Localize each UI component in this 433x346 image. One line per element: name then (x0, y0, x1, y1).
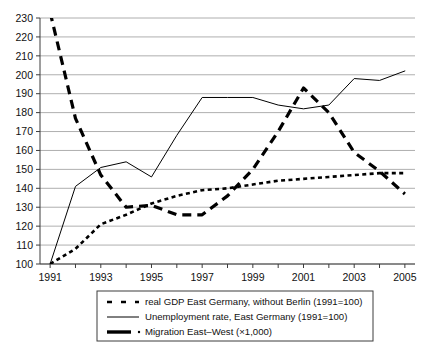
series-line-1 (50, 71, 405, 264)
x-tick-label: 2003 (343, 271, 367, 283)
x-tick-label: 1995 (140, 271, 164, 283)
y-tick-label: 220 (15, 31, 33, 43)
legend-item-label: Unemployment rate, East Germany (1991=10… (145, 311, 347, 322)
x-tick-label: 2005 (393, 271, 417, 283)
x-tick-label: 1993 (89, 271, 113, 283)
dot-marker-icon (138, 331, 140, 333)
y-tick-label: 170 (15, 125, 33, 137)
x-tick-label: 1991 (38, 271, 62, 283)
y-tick-label: 200 (15, 69, 33, 81)
x-tick-label: 1997 (190, 271, 214, 283)
chart-legend: real GDP East Germany, without Berlin (1… (97, 291, 373, 341)
y-tick-label: 140 (15, 182, 33, 194)
y-tick-label: 130 (15, 201, 33, 213)
y-tick-label: 110 (16, 239, 33, 251)
y-tick-label: 100 (15, 258, 33, 270)
chart-container: 1001101201301401501601701801902002102202… (0, 0, 433, 346)
legend-item-label: real GDP East Germany, without Berlin (1… (145, 296, 362, 307)
x-tick-label: 2001 (292, 271, 316, 283)
y-tick-label: 180 (15, 106, 33, 118)
x-tick-label: 1999 (241, 271, 265, 283)
x-axis-tick-labels: 19911993199519971999200120032005 (38, 271, 416, 283)
y-tick-label: 230 (15, 12, 33, 24)
y-axis-tick-labels: 1001101201301401501601701801902002102202… (15, 12, 33, 270)
y-tick-label: 150 (15, 163, 33, 175)
y-tick-label: 120 (15, 220, 33, 232)
series-line-0 (50, 173, 405, 264)
legend-item-label: Migration East–West (×1,000) (145, 326, 272, 337)
legend-item[interactable]: real GDP East Germany, without Berlin (1… (107, 296, 362, 307)
line-chart: 1001101201301401501601701801902002102202… (0, 0, 433, 346)
y-tick-label: 210 (15, 50, 33, 62)
y-tick-label: 160 (15, 144, 33, 156)
series-line-2 (50, 12, 405, 214)
y-tick-label: 190 (15, 87, 33, 99)
